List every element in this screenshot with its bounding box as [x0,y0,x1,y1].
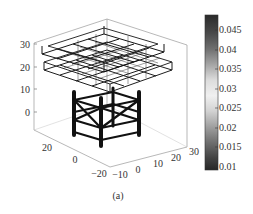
z-tick-label: 20 [20,62,30,73]
y-tick-label: 10 [153,158,163,169]
x-tick-label: 20 [42,142,52,153]
y-tick-label: 20 [171,152,181,163]
colorbar-tick-label: 0.025 [219,102,242,113]
colorbar-tick-label: 0.04 [219,44,237,55]
z-axis-ticks [34,44,37,112]
topside-deck-lower [44,42,172,92]
colorbar-tick-label: 0.015 [219,141,242,152]
colorbar-tick-label: 0.045 [219,24,242,35]
y-tick-label: 0 [136,164,141,175]
jacket-substructure [74,88,139,146]
colorbar-tick-label: 0.02 [219,122,237,133]
x-tick-label: 0 [73,154,78,165]
colorbar-tick-label: 0.03 [219,83,237,94]
y-tick-label: −10 [112,169,128,180]
z-axis-labels: 30 20 10 0 [20,39,30,118]
figure-canvas: 30 20 10 0 20 0 −20 −10 0 10 20 30 [0,0,253,214]
x-tick-label: −20 [91,168,107,179]
colorbar-tick-label: 0.01 [219,161,237,172]
z-tick-label: 30 [20,39,30,50]
y-tick-label: 30 [189,146,199,157]
colorbar-tick-label: 0.035 [219,63,242,74]
z-tick-label: 10 [20,84,30,95]
colorbar: 0.045 0.04 0.035 0.03 0.025 0.02 0.015 0… [205,15,242,172]
z-tick-label: 0 [25,107,30,118]
figure-caption: (a) [0,190,236,201]
